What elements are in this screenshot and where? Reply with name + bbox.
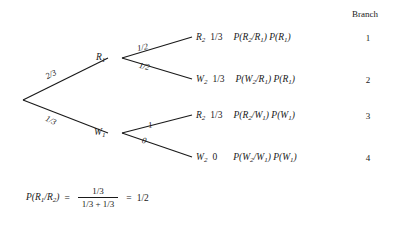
equation-result: 1/2 xyxy=(137,193,149,203)
node-label-w1: W1 xyxy=(94,128,105,139)
equation-equals-sign-1: = xyxy=(64,193,69,203)
outcome-2-variable: W2 xyxy=(196,74,207,86)
bayes-equation: P(R1/R2) = 1/3 1/3 + 1/3 = 1/2 xyxy=(26,186,149,209)
branch-number-3: 3 xyxy=(361,111,375,121)
edge-label-w1-to-r2: 1 xyxy=(147,120,153,129)
outcome-2-expression: P(W2/R1) P(R1) xyxy=(236,74,295,86)
branch-number-2: 2 xyxy=(361,75,375,85)
outcome-1-variable: R2 xyxy=(196,32,205,44)
edge-label-r1-to-r2: 1/2 xyxy=(136,42,148,53)
edge-root-to-r1 xyxy=(23,58,108,100)
outcome-2-probability: 1/3 xyxy=(212,74,224,84)
probability-tree-diagram: Branch 1 2 3 4 2/3 1/3 R1 W1 1/2 1/2 1 0… xyxy=(0,0,404,231)
equation-left-side: P(R1/R2) xyxy=(26,192,59,204)
outcome-1-probability: 1/3 xyxy=(210,32,222,42)
fraction-denominator: 1/3 + 1/3 xyxy=(78,198,119,209)
edge-label-w1-to-w2: 0 xyxy=(141,136,147,145)
edge-r1-to-w2 xyxy=(122,58,192,79)
edge-label-first-stage-red: 2/3 xyxy=(44,68,58,81)
equation-equals-sign-2: = xyxy=(126,193,131,203)
equation-fraction: 1/3 1/3 + 1/3 xyxy=(78,186,119,209)
node-label-r1: R1 xyxy=(96,53,105,64)
outcome-row-2: W2 1/3 P(W2/R1) P(R1) xyxy=(196,74,295,86)
fraction-numerator: 1/3 xyxy=(86,186,110,197)
edge-w1-to-w2 xyxy=(122,133,192,157)
edge-label-first-stage-white: 1/3 xyxy=(44,114,58,127)
branch-column-header: Branch xyxy=(352,9,378,19)
outcome-4-expression: P(W2/W1) P(W1) xyxy=(233,152,297,164)
edge-w1-to-r2 xyxy=(122,115,192,133)
node-w1-sub: 1 xyxy=(102,131,106,139)
branch-number-1: 1 xyxy=(361,33,375,43)
outcome-3-expression: P(R2/W1) P(W1) xyxy=(233,110,294,122)
outcome-3-probability: 1/3 xyxy=(210,110,222,120)
outcome-row-4: W2 0 P(W2/W1) P(W1) xyxy=(196,152,297,164)
branch-number-4: 4 xyxy=(361,153,375,163)
edge-r1-to-r2 xyxy=(122,37,192,58)
outcome-row-3: R2 1/3 P(R2/W1) P(W1) xyxy=(196,110,295,122)
edge-label-r1-to-w2: 1/2 xyxy=(138,61,151,72)
node-w1-var: W xyxy=(94,127,102,137)
outcome-1-expression: P(R2/R1) P(R1) xyxy=(233,32,290,44)
outcome-3-variable: R2 xyxy=(196,110,205,122)
outcome-row-1: R2 1/3 P(R2/R1) P(R1) xyxy=(196,32,291,44)
node-r1-sub: 1 xyxy=(102,56,106,64)
outcome-4-probability: 0 xyxy=(212,152,217,162)
outcome-4-variable: W2 xyxy=(196,152,207,164)
